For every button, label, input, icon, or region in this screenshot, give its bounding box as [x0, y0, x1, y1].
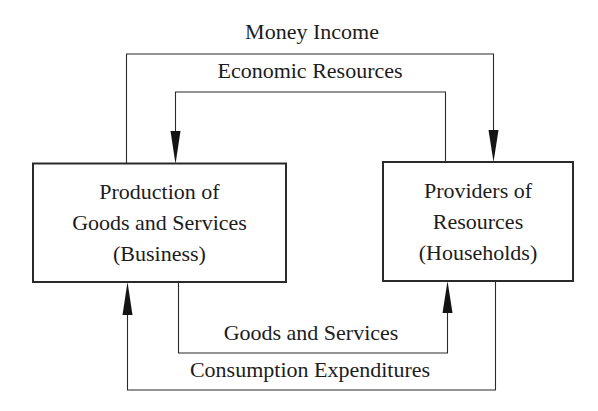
goods-and-services-arrowhead	[443, 281, 453, 313]
circular-flow-diagram: Money Income Economic Resources Goods an…	[0, 0, 598, 411]
money-income-arrowhead	[489, 130, 499, 162]
goods-and-services-label: Goods and Services	[224, 322, 399, 344]
business-node-line-1: Production of	[99, 176, 219, 207]
households-node-line-2: Resources	[433, 206, 523, 237]
business-node: Production of Goods and Services (Busine…	[34, 164, 285, 281]
households-node-line-3: (Households)	[419, 237, 538, 268]
economic-resources-arrowhead	[171, 131, 181, 164]
households-node-line-1: Providers of	[424, 175, 532, 206]
business-node-line-2: Goods and Services	[72, 207, 247, 238]
economic-resources-label: Economic Resources	[217, 60, 402, 82]
business-node-line-3: (Business)	[113, 238, 206, 269]
economic-resources-connector	[176, 92, 446, 162]
consumption-expenditures-label: Consumption Expenditures	[190, 359, 430, 381]
money-income-label: Money Income	[245, 21, 379, 43]
households-node: Providers of Resources (Households)	[384, 163, 572, 280]
consumption-expenditures-arrowhead	[123, 282, 133, 315]
